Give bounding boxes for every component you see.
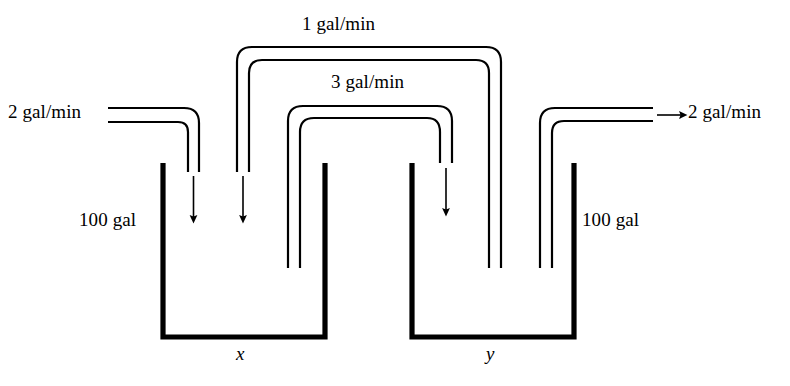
label-tank-left-x: x (236, 344, 245, 363)
label-inlet-2-gal-min: 2 gal/min (8, 102, 81, 121)
label-flow-3-gal-min: 3 gal/min (331, 72, 404, 91)
label-volume-tank-left: 100 gal (79, 210, 136, 229)
tank-right-outline (412, 163, 574, 337)
label-outlet-2-gal-min: 2 gal/min (688, 102, 761, 121)
outlet-pipe-2galmin (540, 108, 653, 268)
diagram-canvas: 1 gal/min 3 gal/min 2 gal/min 2 gal/min … (0, 0, 790, 386)
label-volume-tank-right: 100 gal (582, 210, 639, 229)
tank-flow-diagram (0, 0, 790, 386)
label-flow-1-gal-min: 1 gal/min (302, 14, 375, 33)
inlet-pipe-2galmin (108, 108, 199, 172)
label-tank-right-y: y (486, 344, 495, 363)
transfer-pipe-3galmin (288, 106, 452, 268)
